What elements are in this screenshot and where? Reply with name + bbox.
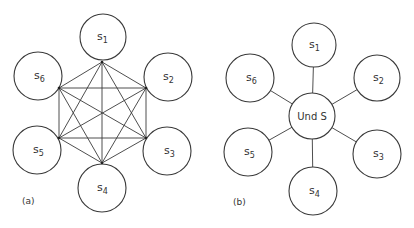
spoke-s3 bbox=[332, 128, 356, 142]
vertex-s6 bbox=[58, 87, 61, 90]
star-node-s4: s4 bbox=[289, 167, 337, 215]
mesh-node-s1: s1 bbox=[80, 14, 126, 60]
vertex-s2 bbox=[145, 87, 148, 90]
star-node-s1: s1 bbox=[292, 23, 336, 67]
panel-b-caption: (b) bbox=[233, 197, 246, 207]
mesh-node-s4: s4 bbox=[78, 164, 126, 212]
node-label-subscript: 5 bbox=[250, 151, 255, 160]
mesh-edges bbox=[59, 62, 146, 163]
node-label-subscript: 3 bbox=[170, 150, 175, 159]
mesh-node-s5: s5 bbox=[13, 126, 61, 174]
diagram-canvas: s1s2s3s4s5s6 (a) s1s2s3s4s5s6 Und S (b) bbox=[0, 0, 414, 228]
spoke-s5 bbox=[269, 127, 292, 140]
node-label-subscript: 1 bbox=[103, 36, 108, 45]
vertex-s1 bbox=[101, 61, 104, 64]
node-label-subscript: 2 bbox=[379, 77, 384, 86]
edge-s4-s5 bbox=[59, 138, 102, 163]
node-label-subscript: 4 bbox=[103, 187, 108, 196]
node-label-subscript: 3 bbox=[379, 153, 384, 162]
star-node-s6: s6 bbox=[226, 54, 274, 102]
hub-node: Und S bbox=[289, 93, 335, 139]
vertex-s3 bbox=[145, 137, 148, 140]
spoke-s2 bbox=[332, 90, 357, 105]
star-node-s5: s5 bbox=[224, 128, 272, 176]
mesh-node-s3: s3 bbox=[143, 127, 191, 175]
panel-b-star: s1s2s3s4s5s6 Und S (b) bbox=[224, 23, 401, 215]
star-node-s2: s2 bbox=[354, 55, 400, 101]
hub-label: Und S bbox=[297, 111, 327, 122]
vertex-s4 bbox=[101, 162, 104, 165]
mesh-node-s2: s2 bbox=[144, 53, 192, 101]
panel-a-caption: (a) bbox=[22, 196, 35, 206]
vertex-s5 bbox=[58, 137, 61, 140]
panel-a-mesh: s1s2s3s4s5s6 (a) bbox=[13, 14, 192, 212]
spoke-s6 bbox=[270, 91, 292, 104]
node-label-subscript: 4 bbox=[315, 190, 320, 199]
node-label-subscript: 6 bbox=[252, 77, 257, 86]
star-node-s3: s3 bbox=[353, 130, 401, 178]
spoke-s1 bbox=[313, 67, 314, 93]
node-label-subscript: 2 bbox=[169, 76, 174, 85]
edge-s1-s2 bbox=[102, 62, 146, 88]
node-label-subscript: 5 bbox=[39, 149, 44, 158]
node-label-subscript: 1 bbox=[315, 44, 320, 53]
edge-s3-s4 bbox=[102, 138, 146, 163]
edge-s1-s6 bbox=[59, 62, 102, 88]
mesh-node-s6: s6 bbox=[14, 52, 62, 100]
node-label-subscript: 6 bbox=[40, 75, 45, 84]
